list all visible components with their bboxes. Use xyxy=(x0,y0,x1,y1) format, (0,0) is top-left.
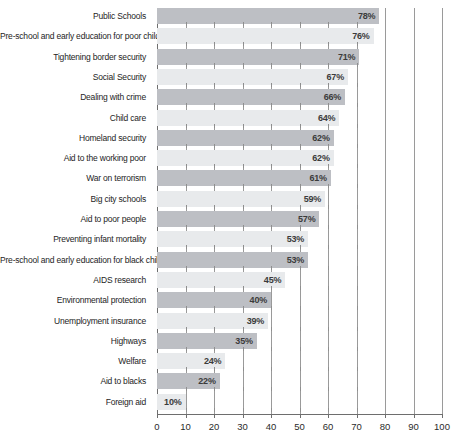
tick-notch xyxy=(328,144,329,148)
tick-notch xyxy=(243,286,244,290)
tick-notch xyxy=(243,83,244,87)
category-label: Highways xyxy=(0,333,151,349)
tick-notch xyxy=(271,124,272,128)
tick-notch xyxy=(271,103,272,107)
bar-value-label: 62% xyxy=(312,150,333,166)
tick-notch xyxy=(357,144,358,148)
tick-notch xyxy=(186,63,187,67)
tick-notch xyxy=(357,22,358,26)
tick-notch xyxy=(300,266,301,270)
tick-notch xyxy=(243,245,244,249)
tick-notch xyxy=(214,83,215,87)
tick-notch xyxy=(214,245,215,249)
category-label: Big city schools xyxy=(0,191,151,207)
x-tick-50 xyxy=(300,414,301,418)
tick-notch xyxy=(214,306,215,310)
tick-notch xyxy=(300,408,301,412)
tick-notch xyxy=(300,327,301,331)
tick-notch xyxy=(186,327,187,331)
bar-value-label: 76% xyxy=(352,28,373,44)
tick-notch xyxy=(186,367,187,371)
tick-notch xyxy=(328,103,329,107)
tick-notch xyxy=(300,245,301,249)
x-tick-30 xyxy=(243,414,244,418)
tick-notch xyxy=(357,205,358,209)
tick-notch xyxy=(214,387,215,391)
tick-notch xyxy=(357,124,358,128)
tick-notch xyxy=(300,347,301,351)
tick-notch xyxy=(214,327,215,331)
x-tick-label-60: 60 xyxy=(323,421,334,432)
tick-notch xyxy=(328,245,329,249)
tick-notch xyxy=(357,306,358,310)
tick-notch xyxy=(214,103,215,107)
bar-value-label: 45% xyxy=(264,272,285,288)
tick-notch xyxy=(214,286,215,290)
category-label: Aid to blacks xyxy=(0,373,151,389)
tick-notch xyxy=(214,367,215,371)
tick-notch xyxy=(300,63,301,67)
tick-notch xyxy=(186,164,187,168)
bar-value-label: 53% xyxy=(287,252,308,268)
bar xyxy=(157,150,334,166)
category-label: Homeland security xyxy=(0,130,151,146)
tick-notch xyxy=(214,124,215,128)
bar xyxy=(157,130,334,146)
tick-notch xyxy=(243,347,244,351)
tick-notch xyxy=(300,184,301,188)
tick-notch xyxy=(186,306,187,310)
category-label: Environmental protection xyxy=(0,292,151,308)
tick-notch xyxy=(328,347,329,351)
tick-notch xyxy=(186,22,187,26)
tick-notch xyxy=(271,63,272,67)
x-tick-label-40: 40 xyxy=(266,421,277,432)
tick-notch xyxy=(271,144,272,148)
x-tick-label-10: 10 xyxy=(180,421,191,432)
category-label: Aid to the working poor xyxy=(0,150,151,166)
bar xyxy=(157,110,339,126)
tick-notch xyxy=(357,347,358,351)
tick-notch xyxy=(357,184,358,188)
x-tick-80 xyxy=(385,414,386,418)
tick-notch xyxy=(243,327,244,331)
tick-notch xyxy=(300,124,301,128)
tick-notch xyxy=(357,408,358,412)
tick-notch xyxy=(214,42,215,46)
tick-notch xyxy=(328,286,329,290)
tick-notch xyxy=(271,266,272,270)
bar xyxy=(157,231,308,247)
tick-notch xyxy=(271,387,272,391)
x-tick-label-80: 80 xyxy=(380,421,391,432)
tick-notch xyxy=(214,63,215,67)
category-label: Social Security xyxy=(0,69,151,85)
tick-notch xyxy=(214,205,215,209)
tick-notch xyxy=(214,184,215,188)
x-tick-label-50: 50 xyxy=(294,421,305,432)
plot-area: 78%76%71%67%66%64%62%62%61%59%57%53%53%4… xyxy=(157,8,442,414)
category-label: Pre-school and early education for black… xyxy=(0,252,151,268)
tick-notch xyxy=(186,184,187,188)
tick-notch xyxy=(186,205,187,209)
tick-notch xyxy=(357,83,358,87)
tick-notch xyxy=(271,22,272,26)
x-tick-10 xyxy=(186,414,187,418)
bar xyxy=(157,170,331,186)
tick-notch xyxy=(357,103,358,107)
tick-notch xyxy=(243,408,244,412)
category-label: Public Schools xyxy=(0,8,151,24)
bar xyxy=(157,8,379,24)
category-label: Dealing with crime xyxy=(0,89,151,105)
x-tick-60 xyxy=(328,414,329,418)
tick-notch xyxy=(328,164,329,168)
tick-notch xyxy=(300,164,301,168)
bar-value-label: 67% xyxy=(327,69,348,85)
tick-notch xyxy=(271,164,272,168)
bar-value-label: 57% xyxy=(298,211,319,227)
tick-notch xyxy=(300,144,301,148)
bar-value-label: 53% xyxy=(287,231,308,247)
x-tick-100 xyxy=(442,414,443,418)
category-label: Preventing infant mortality xyxy=(0,231,151,247)
tick-notch xyxy=(328,63,329,67)
tick-notch xyxy=(243,42,244,46)
x-tick-label-100: 100 xyxy=(434,421,450,432)
